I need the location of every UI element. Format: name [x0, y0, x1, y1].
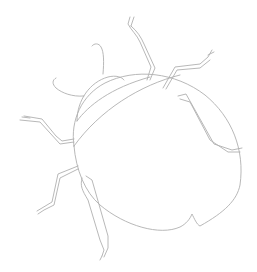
front-left-leg	[20, 116, 74, 144]
beetle-illustration: beetle line drawing	[0, 0, 257, 272]
beetle-drawing	[0, 0, 257, 272]
front-right-leg	[128, 17, 155, 80]
mid-right-leg	[163, 50, 214, 89]
antenna-left	[53, 78, 84, 96]
mid-left-leg	[37, 166, 78, 214]
pronotum	[77, 77, 150, 121]
hind-left-leg	[81, 176, 108, 260]
body-outline	[73, 74, 241, 230]
antenna-right	[92, 44, 104, 74]
hind-right-leg	[178, 94, 242, 152]
